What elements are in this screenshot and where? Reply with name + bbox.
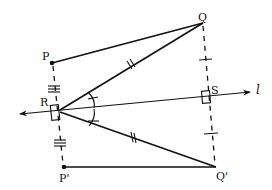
double-tick-rq <box>127 59 135 69</box>
point-p <box>50 61 55 66</box>
label-s: S <box>211 84 219 97</box>
segment-r-qprime <box>60 112 216 167</box>
triple-tick-lower <box>54 140 66 146</box>
label-line-l: l <box>256 83 260 97</box>
label-p: P <box>42 50 50 63</box>
reflection-diagram: P Q R S P' Q' l <box>0 0 272 190</box>
label-r: R <box>40 96 49 109</box>
single-tick-upper <box>199 59 212 60</box>
single-tick-lower <box>204 133 218 134</box>
label-q: Q <box>198 11 207 24</box>
segment-p-q <box>52 23 203 63</box>
segment-p-pprime <box>53 66 63 164</box>
angle-arc-upper <box>88 92 94 108</box>
label-qprime: Q' <box>216 170 228 183</box>
label-pprime: P' <box>59 172 69 185</box>
point-pprime <box>62 165 67 170</box>
segment-r-q <box>60 23 203 110</box>
triple-tick-upper <box>48 86 60 92</box>
